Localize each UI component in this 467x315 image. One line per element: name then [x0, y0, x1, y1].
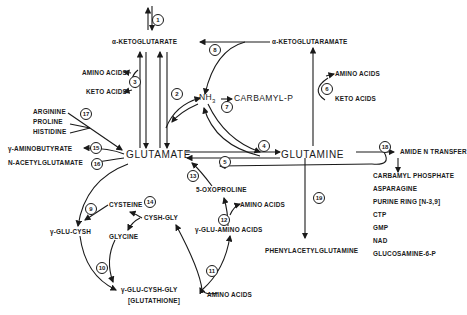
node-glutamate: GLUTAMATE [126, 150, 191, 160]
reaction-17-badge: 17 [80, 108, 92, 120]
reaction-11-badge: 11 [206, 265, 218, 277]
reaction-13-badge: 13 [187, 170, 199, 182]
reaction-12-badge: 12 [218, 214, 230, 226]
node-amino-acids-3: AMINO ACIDS [82, 70, 127, 76]
node-amide-n-transfer: AMIDE N TRANSFER [400, 149, 467, 155]
node-amino-acids-12: AMINO ACIDS [240, 202, 285, 208]
node-gamma-glu-cysh-gly: γ-GLU-CYSH-GLY [121, 287, 178, 293]
reaction-1-badge: 1 [152, 14, 164, 26]
amide-product-6: GLUCOSAMINE-6-P [373, 251, 436, 257]
node-proline: PROLINE [33, 119, 63, 125]
node-histidine: HISTIDINE [33, 129, 66, 135]
node-arginine: ARGININE [33, 109, 66, 115]
reaction-8-badge: 8 [209, 44, 221, 56]
amide-product-4: GMP [373, 225, 388, 231]
node-ammonia: NH3 [199, 93, 216, 104]
node-amino-acids-11: AMINO ACIDS [207, 292, 252, 298]
node-keto-acids-6: KETO ACIDS [335, 96, 376, 102]
amide-product-1: ASPARAGINE [373, 186, 417, 192]
node-keto-acids-3: KETO ACIDS [86, 89, 127, 95]
node-carbamyl-p: CARBAMYL-P [234, 94, 293, 103]
reaction-2-badge: 2 [171, 88, 183, 100]
node-amino-acids-6: AMINO ACIDS [335, 71, 380, 77]
amide-product-2: PURINE RING [N-3,9] [373, 199, 440, 205]
reaction-4-badge: 4 [258, 140, 270, 152]
node-gamma-aminobutyrate: γ-AMINOBUTYRATE [8, 146, 72, 152]
amide-product-0: CARBAMYL PHOSPHATE [373, 173, 454, 179]
reaction-18-badge: 18 [379, 141, 391, 153]
reaction-16-badge: 16 [91, 158, 103, 170]
node-phenylacetylglutamine: PHENYLACETYLGLUTAMINE [265, 248, 358, 254]
node-alpha-ketoglutaramate: α-KETOGLUTARAMATE [272, 39, 348, 45]
node-glycine: GLYCINE [109, 234, 138, 240]
reaction-3-badge: 3 [129, 76, 141, 88]
node-cysh-gly: CYSH-GLY [144, 215, 178, 221]
reaction-19-badge: 19 [313, 192, 325, 204]
node-cysteine: CYSTEINE [109, 202, 143, 208]
reaction-5-badge: 5 [219, 156, 231, 168]
node-gamma-glu-cysh: γ-GLU-CYSH [50, 229, 91, 235]
reaction-9-badge: 9 [85, 203, 97, 215]
reaction-7-badge: 7 [221, 101, 233, 113]
reaction-14-badge: 14 [144, 196, 156, 208]
node-n-acetylglutamate: N-ACETYLGLUTAMATE [8, 160, 83, 166]
reaction-15-badge: 15 [90, 142, 102, 154]
amide-product-3: CTP [373, 212, 386, 218]
node-glutathione: [GLUTATHIONE] [128, 298, 180, 304]
node-alpha-ketoglutarate: α-KETOGLUTARATE [112, 39, 177, 45]
node-glutamine: GLUTAMINE [281, 150, 344, 160]
reaction-10-badge: 10 [96, 262, 108, 274]
reaction-6-badge: 6 [321, 83, 333, 95]
amide-product-5: NAD [373, 238, 387, 244]
node-5-oxoproline: 5-OXOPROLINE [196, 187, 247, 193]
node-gamma-glu-amino-acids: γ-GLU-AMINO ACIDS [195, 227, 262, 233]
